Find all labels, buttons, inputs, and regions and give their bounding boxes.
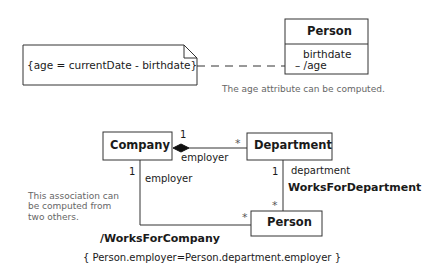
attribute-age-derived: – /age xyxy=(295,60,327,71)
note-text: {age = currentDate - birthdate} xyxy=(27,60,197,71)
comment-line-3: two others. xyxy=(28,212,119,222)
department-role: department xyxy=(291,166,350,176)
company-class-name: Company xyxy=(110,140,170,152)
works-for-department-person-multiplicity: * xyxy=(272,200,278,211)
works-for-company-label: /WorksForCompany xyxy=(100,233,220,244)
department-end-multiplicity: 1 xyxy=(272,167,278,177)
department-class-name: Department xyxy=(254,140,332,152)
composition-diamond-icon xyxy=(173,144,189,152)
composition-role-employer: employer xyxy=(181,153,228,163)
association-comment: This association can be computed from tw… xyxy=(28,191,119,222)
attribute-birthdate: birthdate xyxy=(303,49,351,60)
composition-department-multiplicity: * xyxy=(235,138,241,149)
age-caption: The age attribute can be computed. xyxy=(222,84,385,94)
derivation-constraint: { Person.employer=Person.department.empl… xyxy=(83,253,341,263)
comment-line-1: This association can xyxy=(28,191,119,201)
works-for-company-line xyxy=(140,160,251,225)
person-class-bottom-name: Person xyxy=(267,217,312,229)
person-class-top-name: Person xyxy=(307,26,352,38)
works-for-company-person-multiplicity: * xyxy=(242,212,248,223)
composition-company-multiplicity: 1 xyxy=(180,130,186,140)
comment-line-2: be computed from xyxy=(28,201,119,211)
works-for-department-label: WorksForDepartment xyxy=(288,182,421,193)
works-for-company-role-employer: employer xyxy=(145,174,192,184)
works-for-company-company-multiplicity: 1 xyxy=(129,167,135,177)
